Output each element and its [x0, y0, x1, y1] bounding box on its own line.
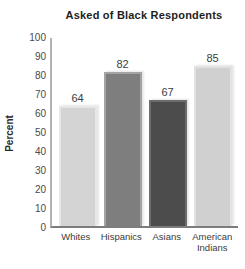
bars-group: 64826785 [52, 38, 238, 226]
bar-value-label-asians: 67 [161, 86, 173, 98]
x-label-asians: Asians [144, 231, 190, 253]
x-axis-category-labels: WhitesHispanicsAsiansAmerican Indians [50, 231, 238, 253]
bar-group-asians: 67 [145, 38, 190, 226]
x-label-whites: Whites [53, 231, 99, 253]
y-tick-label-10: 10 [17, 203, 46, 215]
y-tick-label-50: 50 [17, 127, 46, 139]
y-tick-label-60: 60 [17, 108, 46, 120]
bar-hispanics [104, 72, 142, 226]
bar-whites [59, 106, 97, 226]
y-tick-label-20: 20 [17, 184, 46, 196]
y-tick-label-90: 90 [17, 51, 46, 63]
bar-american-indians [194, 66, 232, 226]
bar-group-american-indians: 85 [190, 38, 235, 226]
bar-chart: Asked of Black Respondents Percent 10090… [0, 0, 245, 269]
y-axis-label-text: Percent [4, 115, 15, 152]
bar-value-label-whites: 64 [71, 92, 83, 104]
y-axis-tick-labels: 1009080706050403020100 [17, 38, 46, 228]
y-tick-label-80: 80 [17, 70, 46, 82]
x-label-hispanics: Hispanics [99, 231, 145, 253]
bar-asians [149, 100, 187, 226]
y-axis-label: Percent [2, 38, 17, 228]
bar-group-whites: 64 [55, 38, 100, 226]
y-tick-label-30: 30 [17, 165, 46, 177]
y-tick-label-70: 70 [17, 89, 46, 101]
plot-area: 64826785 [50, 38, 238, 228]
bar-value-label-hispanics: 82 [116, 58, 128, 70]
y-tick-label-40: 40 [17, 146, 46, 158]
bar-value-label-american-indians: 85 [206, 52, 218, 64]
y-tick-label-100: 100 [17, 32, 46, 44]
x-label-american-indians: American Indians [190, 231, 236, 253]
bar-group-hispanics: 82 [100, 38, 145, 226]
chart-title: Asked of Black Respondents [48, 9, 240, 21]
y-tick-label-0: 0 [17, 222, 46, 234]
